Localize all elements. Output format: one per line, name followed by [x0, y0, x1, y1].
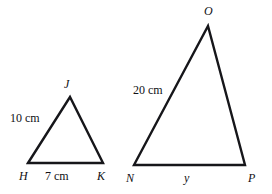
triangle-hjk-shape [28, 97, 103, 163]
side-label-hj: 10 cm [10, 112, 40, 124]
triangles-canvas [0, 0, 272, 194]
vertex-label-k: K [97, 170, 105, 182]
vertex-label-h: H [19, 170, 28, 182]
vertex-label-o: O [204, 5, 213, 17]
side-label-np: y [184, 172, 189, 184]
geometry-diagram: J H K 10 cm 7 cm O N P 20 cm y [0, 0, 272, 194]
vertex-label-j: J [64, 78, 69, 90]
side-label-hk: 7 cm [45, 170, 69, 182]
side-label-no: 20 cm [133, 84, 163, 96]
vertex-label-n: N [126, 172, 134, 184]
vertex-label-p: P [248, 172, 255, 184]
